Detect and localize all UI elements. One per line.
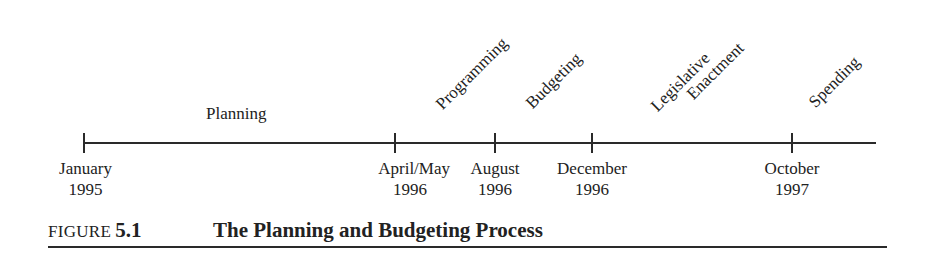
date-month: October: [765, 159, 820, 178]
date-august-1996: August 1996: [460, 158, 530, 200]
date-january-1995: January 1995: [48, 158, 123, 200]
timeline-axis: [84, 142, 876, 144]
date-month: August: [470, 159, 519, 178]
date-year: 1995: [48, 179, 123, 200]
date-year: 1997: [752, 179, 832, 200]
date-december-1996: December 1996: [544, 158, 640, 200]
phase-budgeting: Budgeting: [522, 49, 586, 113]
figure-title: The Planning and Budgeting Process: [213, 218, 543, 243]
tick-october-1997: [791, 133, 793, 153]
date-year: 1996: [460, 179, 530, 200]
figure-caption: FIGURE 5.1 The Planning and Budgeting Pr…: [48, 218, 141, 243]
date-april-may-1996: April/May 1996: [340, 158, 450, 200]
phase-planning: Planning: [206, 104, 266, 124]
phase-spending: Spending: [805, 52, 865, 112]
tick-january-1995: [83, 133, 85, 153]
figure-label: FIGURE: [48, 222, 111, 241]
date-month: December: [557, 159, 627, 178]
date-october-1997: October 1997: [752, 158, 832, 200]
tick-december-1996: [591, 133, 593, 153]
tick-august-1996: [494, 133, 496, 153]
figure-number: 5.1: [115, 218, 141, 242]
date-month: April/May: [378, 159, 450, 178]
date-year: 1996: [340, 179, 450, 200]
caption-rule: [48, 246, 887, 248]
date-year: 1996: [544, 179, 640, 200]
phase-programming: Programming: [432, 34, 512, 114]
date-month: January: [59, 159, 112, 178]
tick-april-may-1996: [394, 133, 396, 153]
